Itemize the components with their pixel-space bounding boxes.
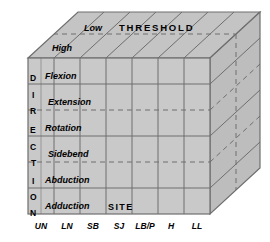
direction-axis-letter-4: C — [30, 143, 36, 152]
direction-axis-letter-8: N — [30, 209, 36, 218]
site-tick-ll: LL — [184, 222, 210, 231]
direction-axis-letter-3: E — [30, 126, 36, 135]
direction-row-adduction: Adduction — [45, 202, 90, 211]
site-tick-sb: SB — [80, 222, 106, 231]
direction-row-abduction: Abduction — [45, 176, 90, 185]
data-cube-figure: Low THRESHOLD High D I R E C T I O N Fle… — [0, 0, 270, 242]
cube-geometry — [0, 0, 270, 242]
direction-axis-letter-0: D — [30, 74, 36, 83]
site-tick-ln: LN — [54, 222, 80, 231]
direction-row-extension: Extension — [48, 98, 91, 107]
direction-row-flexion: Flexion — [45, 72, 77, 81]
direction-axis-letter-2: R — [30, 107, 36, 116]
site-tick-lbp: LB/P — [132, 222, 158, 231]
direction-axis-letter-7: O — [30, 193, 37, 202]
direction-row-rotation: Rotation — [45, 124, 82, 133]
direction-axis-letter-5: T — [31, 159, 36, 168]
site-tick-un: UN — [28, 222, 54, 231]
site-tick-h: H — [158, 222, 184, 231]
threshold-level-high: High — [52, 44, 72, 53]
site-tick-sj: SJ — [106, 222, 132, 231]
threshold-level-low: Low — [84, 24, 102, 33]
direction-axis-letter-1: I — [32, 91, 34, 100]
direction-axis-letter-6: I — [32, 177, 34, 186]
direction-row-sidebend: Sidebend — [48, 150, 89, 159]
threshold-axis-title: THRESHOLD — [119, 23, 194, 33]
cube-front-face — [28, 58, 210, 214]
site-axis-title: SITE — [108, 203, 134, 212]
